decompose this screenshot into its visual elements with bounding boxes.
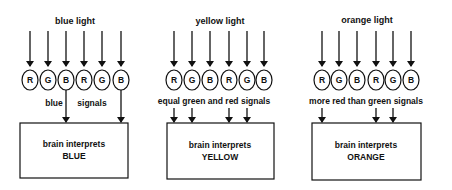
brain-box-line2: BLUE [62, 151, 85, 161]
panel-orange: orange light R G B R G B more red than g… [309, 15, 423, 180]
brain-box-line1: brain interprets [43, 139, 106, 149]
panel-blue: blue light R G B R G B blue signals [20, 16, 129, 178]
brain-box-line2: ORANGE [347, 152, 385, 162]
incoming-light-arrows [30, 31, 121, 66]
receptor-label: B [63, 75, 69, 85]
receptor-label: B [261, 75, 267, 85]
receptor-label: R [373, 75, 379, 85]
panel-title: blue light [55, 16, 95, 26]
receptor-label: R [319, 75, 325, 85]
signal-label: equal green and red signals [158, 96, 271, 106]
receptor-label: B [118, 75, 124, 85]
brain-box-line1: brain interprets [189, 140, 252, 150]
receptor-label: G [45, 75, 52, 85]
receptor-label: G [189, 75, 196, 85]
receptors [166, 70, 272, 90]
incoming-light-arrows [322, 31, 411, 66]
receptor-label: B [354, 75, 360, 85]
receptor-label: G [390, 75, 397, 85]
receptor-label: R [27, 75, 33, 85]
incoming-light-arrows [174, 31, 264, 66]
receptor-label: R [226, 75, 232, 85]
signal-label: more red than green signals [309, 96, 423, 106]
panel-yellow: yellow light R G B R G B equal green and… [158, 16, 274, 179]
panel-title: orange light [341, 15, 393, 25]
receptor-label: R [81, 75, 87, 85]
brain-box-line1: brain interprets [335, 140, 398, 150]
brain-box-line2: YELLOW [202, 152, 239, 162]
panel-title: yellow light [195, 16, 244, 26]
signal-arrows [174, 108, 247, 122]
receptor-label: G [99, 75, 106, 85]
brain-box [167, 123, 274, 179]
receptor-label: B [408, 75, 414, 85]
signal-label: signals [77, 98, 107, 108]
receptor-label: B [207, 75, 213, 85]
color-vision-diagram: blue light R G B R G B blue signals [0, 0, 452, 190]
receptor-label: G [336, 75, 343, 85]
receptors [22, 70, 129, 90]
signal-arrows [322, 108, 393, 122]
signal-label: blue [45, 98, 63, 108]
receptor-label: R [171, 75, 177, 85]
receptor-label: G [244, 75, 251, 85]
receptors [314, 70, 419, 90]
